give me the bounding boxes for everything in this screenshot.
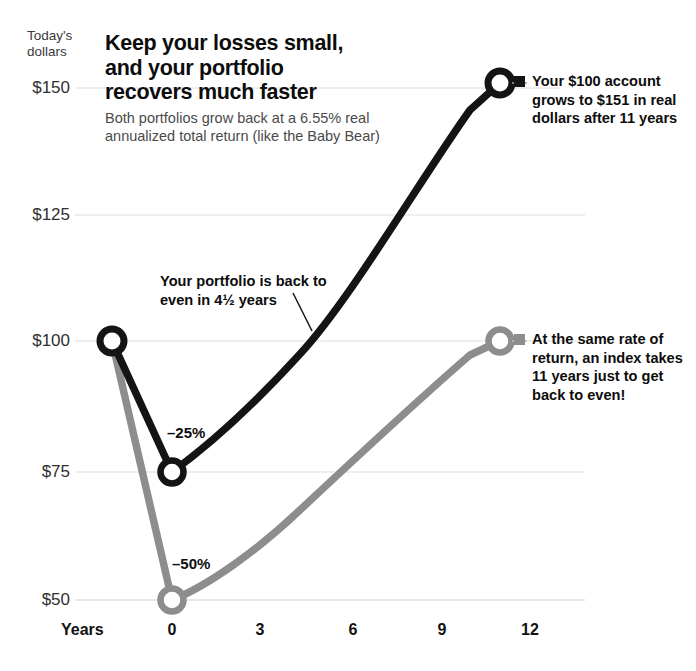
y-tick-150: $150	[5, 78, 70, 98]
x-tick-3: 3	[240, 621, 280, 639]
legend-dark-text: Your $100 account grows to $151 in real …	[532, 72, 684, 128]
y-tick-50: $50	[5, 590, 70, 610]
x-tick-9: 9	[422, 621, 462, 639]
y-axis-caption-line1: Today's	[27, 28, 97, 44]
drawdown-label-gray: –50%	[172, 555, 210, 572]
legend-gray-index: At the same rate of return, an index tak…	[514, 330, 684, 404]
x-axis-title: Years	[61, 621, 104, 639]
drawdown-label-dark: –25%	[167, 424, 205, 441]
legend-swatch-gray-icon	[514, 334, 525, 345]
series-gray-markers	[161, 330, 512, 612]
chart-headline: Keep your losses small, and your portfol…	[105, 31, 405, 105]
chart-canvas: Today's dollars $150 $125 $100 $75 $50 Y…	[0, 0, 696, 671]
headline-line-3: recovers much faster	[105, 80, 405, 105]
legend-swatch-dark-icon	[514, 76, 525, 87]
chart-subhead: Both portfolios grow back at a 6.55% rea…	[105, 110, 425, 145]
headline-line-2: and your portfolio	[105, 56, 405, 81]
headline-line-1: Keep your losses small,	[105, 31, 405, 56]
callout-breakeven: Your portfolio is back to even in 4½ yea…	[160, 272, 350, 310]
x-tick-0: 0	[152, 621, 192, 639]
y-tick-125: $125	[5, 205, 70, 225]
legend-dark-account: Your $100 account grows to $151 in real …	[514, 72, 684, 128]
y-tick-75: $75	[5, 462, 70, 482]
x-tick-12: 12	[510, 621, 550, 639]
x-tick-6: 6	[333, 621, 373, 639]
y-tick-100: $100	[5, 331, 70, 351]
legend-gray-text: At the same rate of return, an index tak…	[532, 330, 684, 404]
y-axis-caption: Today's dollars	[27, 28, 97, 59]
y-axis-caption-line2: dollars	[27, 44, 97, 60]
